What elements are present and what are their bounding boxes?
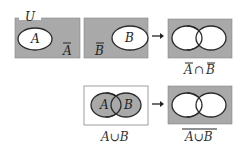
caption-a-bar: A bbox=[183, 63, 193, 77]
set-b-label: B bbox=[124, 31, 134, 45]
caption-union: A∪B bbox=[100, 130, 129, 144]
panel-intersection-of-complements: A ∩ B bbox=[168, 19, 232, 77]
panel-complement-b: B B bbox=[84, 18, 148, 58]
arrow-right-icon bbox=[152, 33, 164, 39]
a-complement-label: A bbox=[62, 44, 72, 58]
panel-union: A B A∪B bbox=[84, 86, 148, 144]
universe-label: U bbox=[25, 10, 36, 24]
caption-b-bar: B bbox=[205, 63, 215, 77]
panel-complement-a: U A A bbox=[15, 10, 80, 58]
set-a-label: A bbox=[30, 32, 40, 46]
venn-diagram-figure: U A A B B A ∩ B A B A∪B bbox=[0, 0, 244, 152]
panel-complement-of-union: A∪B bbox=[168, 86, 232, 144]
b-complement-label: B bbox=[94, 44, 104, 58]
caption-intersection-op: ∩ bbox=[194, 63, 204, 77]
caption-complement-union: A∪B bbox=[184, 130, 213, 144]
arrow-right-icon bbox=[152, 101, 164, 107]
union-b-label: B bbox=[123, 98, 133, 112]
union-a-label: A bbox=[99, 98, 109, 112]
